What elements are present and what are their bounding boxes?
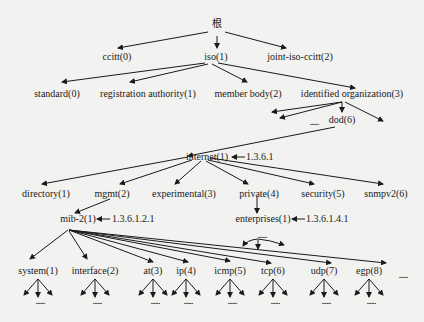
leaf-ellipsis: ......: [36, 296, 45, 306]
node-iso: iso(1): [204, 51, 227, 63]
leaf-ellipsis: ......: [367, 296, 376, 306]
mib-tree-diagram: 根 ccitt(0) iso(1) joint-iso-ccitt(2) sta…: [0, 0, 424, 322]
leaf-ellipsis: ......: [184, 296, 193, 306]
node-mib-2: mib-2(1): [60, 213, 96, 225]
dod-siblings-ellipsis: ......: [310, 117, 319, 127]
node-mib2-child: icmp(5): [214, 265, 246, 277]
leaf-ellipsis: ......: [228, 296, 237, 306]
root-node: 根: [212, 18, 222, 30]
node-private: private(4): [239, 188, 278, 200]
enterprises-ellipsis: ......: [258, 230, 267, 240]
mib-2-oid: 1.3.6.1.2.1: [112, 213, 155, 225]
node-ccitt: ccitt(0): [103, 51, 132, 63]
leaf-ellipsis: ......: [322, 296, 331, 306]
node-identified-organization: identified organization(3): [301, 88, 403, 100]
node-mib2-child: tcp(6): [261, 265, 285, 277]
node-member-body: member body(2): [215, 88, 282, 100]
node-mib2-child: system(1): [18, 265, 57, 277]
node-mib2-child: ip(4): [176, 265, 195, 277]
node-mib2-child: egp(8): [356, 265, 382, 277]
node-mib2-child: udp(7): [311, 265, 338, 277]
enterprises-oid: 1.3.6.1.4.1: [306, 213, 349, 225]
node-internet: internet(1): [186, 151, 228, 163]
mib-2-more-ellipsis: ......: [399, 270, 408, 280]
node-enterprises: enterprises(1): [236, 213, 291, 225]
node-joint-iso-ccitt: joint-iso-ccitt(2): [267, 51, 333, 63]
node-registration-authority: registration authority(1): [100, 88, 196, 100]
leaf-ellipsis: ......: [151, 296, 160, 306]
node-snmpv2: snmpv2(6): [364, 188, 407, 200]
leaf-ellipsis: ......: [93, 296, 102, 306]
leaf-ellipsis: ......: [271, 296, 280, 306]
node-security: security(5): [301, 188, 344, 200]
internet-oid: 1.3.6.1: [246, 151, 274, 163]
node-mgmt: mgmt(2): [95, 188, 130, 200]
node-mib2-child: interface(2): [72, 265, 119, 277]
node-dod: dod(6): [329, 114, 356, 126]
node-mib2-child: at(3): [144, 265, 163, 277]
node-experimental: experimental(3): [152, 188, 216, 200]
node-standard: standard(0): [34, 88, 80, 100]
node-directory: directory(1): [22, 188, 70, 200]
